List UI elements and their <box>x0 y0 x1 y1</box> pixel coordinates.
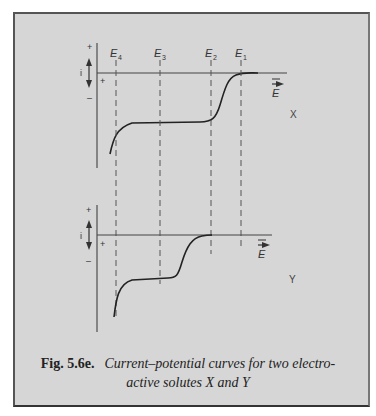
e2-label: E <box>205 47 213 59</box>
svg-text:1: 1 <box>243 54 247 61</box>
e3-label: E <box>154 47 162 59</box>
figure-caption: Fig. 5.6e.Current–potential curves for t… <box>20 354 356 392</box>
x-down-arrow-icon <box>86 80 92 88</box>
e4-label: E <box>110 47 118 59</box>
caption-line-2: active solutes X and Y <box>20 373 356 392</box>
figure-number: Fig. 5.6e. <box>41 356 95 371</box>
x-solute-label: X <box>290 109 297 120</box>
x-e-label: E <box>272 87 280 99</box>
x-i-label: i <box>80 68 82 78</box>
y-solute-label: Y <box>289 274 296 285</box>
plot-x: + i – + E X <box>80 42 297 168</box>
x-minus-sign: – <box>87 93 92 103</box>
potential-labels: E 4 E 3 E 2 E 1 <box>110 47 247 61</box>
y-minus-sign: – <box>86 256 91 266</box>
y-i-label: i <box>80 231 82 241</box>
svg-text:2: 2 <box>213 54 217 61</box>
plot-y: + i – + E Y <box>80 205 296 332</box>
x-plus-sign: + <box>87 42 92 52</box>
y-e-label: E <box>258 248 266 260</box>
x-curve <box>110 73 258 154</box>
y-curve <box>114 235 212 317</box>
svg-text:4: 4 <box>118 54 122 61</box>
x-plus-inside: + <box>100 76 105 86</box>
e1-label: E <box>235 47 243 59</box>
y-down-arrow-icon <box>86 242 92 250</box>
y-plus-sign: + <box>86 205 91 215</box>
caption-line-1: Current–potential curves for two electro… <box>104 356 335 371</box>
y-plus-inside: + <box>100 239 105 249</box>
svg-text:3: 3 <box>162 54 166 61</box>
